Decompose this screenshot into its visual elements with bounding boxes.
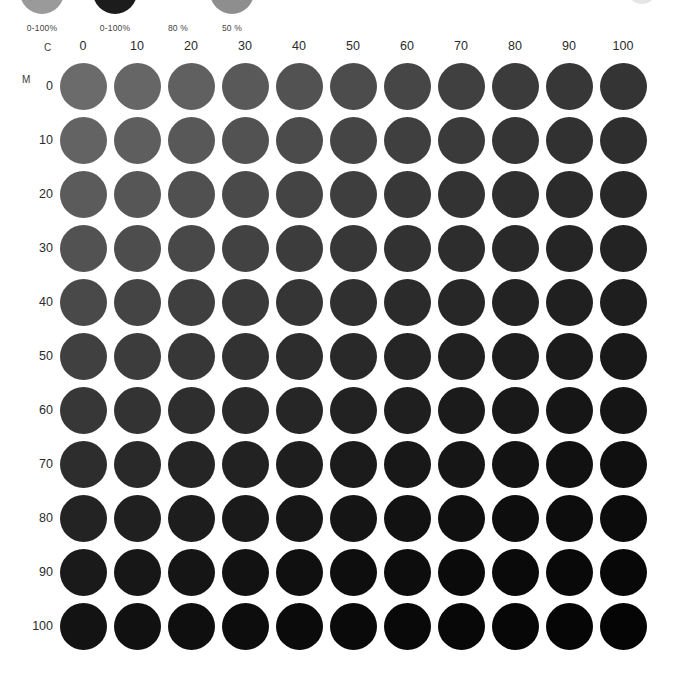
swatch-dot — [384, 603, 431, 650]
column-header: 80 — [488, 39, 542, 53]
swatch-cell — [272, 330, 326, 384]
swatch-cell — [218, 276, 272, 330]
swatch-cell — [326, 222, 380, 276]
swatch-dot — [330, 225, 377, 272]
swatch-dot — [438, 117, 485, 164]
swatch-dot — [492, 225, 539, 272]
swatch-row — [56, 600, 650, 654]
legend-label: 0-100% — [6, 23, 78, 33]
swatch-dot — [492, 117, 539, 164]
swatch-cell — [164, 600, 218, 654]
legend-swatch — [156, 0, 200, 14]
swatch-cell — [488, 168, 542, 222]
swatch-dot — [438, 495, 485, 542]
swatch-dot — [114, 441, 161, 488]
swatch-cell — [488, 492, 542, 546]
swatch-dot — [168, 63, 215, 110]
row-header: 10 — [0, 133, 53, 147]
swatch-dot — [276, 603, 323, 650]
swatch-cell — [326, 330, 380, 384]
swatch-dot — [546, 117, 593, 164]
swatch-dot — [276, 441, 323, 488]
swatch-dot — [546, 333, 593, 380]
swatch-dot — [600, 603, 647, 650]
swatch-dot — [492, 495, 539, 542]
swatch-cell — [434, 330, 488, 384]
swatch-dot — [276, 117, 323, 164]
swatch-dot — [276, 279, 323, 326]
swatch-dot — [168, 279, 215, 326]
swatch-dot — [546, 63, 593, 110]
swatch-cell — [272, 492, 326, 546]
swatch-cell — [434, 276, 488, 330]
swatch-dot — [60, 549, 107, 596]
swatch-cell — [542, 438, 596, 492]
swatch-dot — [492, 63, 539, 110]
swatch-dot — [222, 279, 269, 326]
swatch-row — [56, 492, 650, 546]
swatch-dot — [546, 171, 593, 218]
row-header: 70 — [0, 457, 53, 471]
column-header: 70 — [434, 39, 488, 53]
swatch-dot — [384, 333, 431, 380]
swatch-cell — [56, 222, 110, 276]
cmy-tone-chart: C M 0102030405060708090100 0102030405060… — [0, 36, 675, 689]
swatch-dot — [492, 333, 539, 380]
swatch-row — [56, 222, 650, 276]
swatch-cell — [542, 60, 596, 114]
swatch-dot — [114, 333, 161, 380]
swatch-dot — [168, 495, 215, 542]
swatch-dot — [222, 225, 269, 272]
swatch-dot — [438, 171, 485, 218]
swatch-dot — [600, 387, 647, 434]
swatch-dot — [114, 171, 161, 218]
swatch-cell — [56, 492, 110, 546]
swatch-cell — [380, 276, 434, 330]
swatch-dot — [168, 333, 215, 380]
column-header: 20 — [164, 39, 218, 53]
swatch-cell — [218, 60, 272, 114]
swatch-cell — [542, 546, 596, 600]
swatch-cell — [272, 546, 326, 600]
swatch-dot — [60, 63, 107, 110]
swatch-dot — [330, 495, 377, 542]
swatch-dot — [384, 171, 431, 218]
swatch-cell — [326, 600, 380, 654]
swatch-cell — [164, 546, 218, 600]
swatch-dot — [438, 279, 485, 326]
swatch-cell — [218, 600, 272, 654]
swatch-dot — [438, 63, 485, 110]
swatch-dot — [276, 387, 323, 434]
swatch-dot — [222, 171, 269, 218]
swatch-cell — [110, 600, 164, 654]
swatch-cell — [542, 600, 596, 654]
swatch-row — [56, 384, 650, 438]
swatch-dot — [600, 225, 647, 272]
swatch-dot — [114, 387, 161, 434]
swatch-cell — [596, 492, 650, 546]
swatch-cell — [596, 546, 650, 600]
swatch-dot — [384, 495, 431, 542]
swatch-dot — [276, 333, 323, 380]
swatch-cell — [164, 384, 218, 438]
swatch-dot — [600, 549, 647, 596]
row-header: 100 — [0, 619, 53, 633]
swatch-dot — [222, 117, 269, 164]
swatch-dot — [492, 171, 539, 218]
column-header: 90 — [542, 39, 596, 53]
swatch-cell — [164, 330, 218, 384]
swatch-cell — [56, 600, 110, 654]
swatch-cell — [326, 114, 380, 168]
swatch-dot — [600, 171, 647, 218]
swatch-dot — [276, 63, 323, 110]
swatch-dot — [546, 603, 593, 650]
swatch-cell — [56, 114, 110, 168]
swatch-cell — [596, 600, 650, 654]
swatch-dot — [384, 387, 431, 434]
row-header: 50 — [0, 349, 53, 363]
swatch-row — [56, 168, 650, 222]
swatch-cell — [596, 60, 650, 114]
swatch-dot — [330, 441, 377, 488]
swatch-dot — [438, 387, 485, 434]
column-header: 0 — [56, 39, 110, 53]
